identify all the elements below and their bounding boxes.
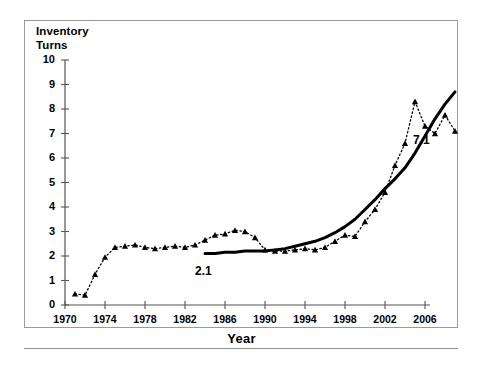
y-axis-tick-label: 5 xyxy=(29,176,55,188)
data-point-marker xyxy=(392,162,398,168)
y-axis-tick-label: 4 xyxy=(29,200,55,212)
y-axis-tick-label: 6 xyxy=(29,151,55,163)
data-point-marker xyxy=(222,231,228,237)
data-point-marker xyxy=(242,228,248,234)
data-point-marker xyxy=(372,206,378,212)
data-point-marker xyxy=(252,235,258,241)
y-axis-tick-label: 8 xyxy=(29,102,55,114)
annotation-label: 7.1 xyxy=(413,133,430,147)
figure: Inventory Turns 012345678910197019741978… xyxy=(0,0,483,369)
data-point-marker xyxy=(422,123,428,129)
y-axis-tick-label: 3 xyxy=(29,225,55,237)
data-point-marker xyxy=(122,243,128,249)
x-axis-title: Year xyxy=(0,331,483,346)
y-axis-tick-label: 1 xyxy=(29,274,55,286)
data-point-marker xyxy=(402,140,408,146)
data-point-marker xyxy=(72,291,78,297)
data-point-marker xyxy=(342,232,348,238)
data-point-marker xyxy=(452,128,458,134)
data-point-marker xyxy=(412,99,418,105)
x-axis-tick-label: 2006 xyxy=(402,313,448,325)
data-point-marker xyxy=(442,112,448,118)
y-axis-tick-label: 2 xyxy=(29,249,55,261)
data-point-marker xyxy=(322,244,328,250)
y-axis-tick-label: 7 xyxy=(29,127,55,139)
series-line-solid-trend xyxy=(205,92,455,254)
series-line-dotted-markers xyxy=(75,102,455,296)
y-axis-tick-label: 0 xyxy=(29,298,55,310)
data-point-marker xyxy=(192,242,198,248)
y-axis-tick-label: 9 xyxy=(29,78,55,90)
data-point-marker xyxy=(92,271,98,277)
data-point-marker xyxy=(332,238,338,244)
data-point-marker xyxy=(202,237,208,243)
annotation-label: 2.1 xyxy=(195,264,212,278)
y-axis-tick-label: 10 xyxy=(29,53,55,65)
data-point-marker xyxy=(302,246,308,252)
